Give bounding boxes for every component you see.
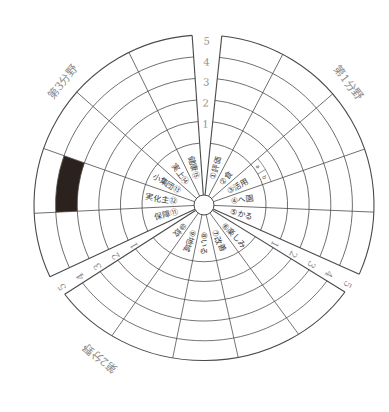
sub-cell-label: b [261, 174, 268, 180]
item-label: ⑤かる [229, 207, 254, 221]
radial-line [209, 54, 283, 196]
radial-line [77, 92, 197, 198]
ring-arc [100, 270, 309, 321]
radial-line [129, 52, 200, 196]
sector-title: 第1分野 [331, 63, 367, 103]
radial-line [212, 210, 345, 292]
item-name: へ園 [237, 193, 254, 204]
radial-line [213, 149, 364, 202]
item-number: ⑪ [169, 207, 179, 218]
item-label: 保障⑪ [153, 206, 179, 221]
item-name: 改善 [213, 234, 228, 253]
item-number: ⑧ [200, 232, 209, 239]
radial-line [210, 213, 299, 335]
item-number: ⑮ [191, 170, 202, 180]
scale-label: 5 [341, 279, 354, 290]
sector-3: 保障⑪実化主⑫小集団⑬実上⑭健康⑮第3分野 [34, 35, 203, 276]
item-name: 楽しみ [225, 225, 249, 249]
radial-line [212, 94, 333, 199]
item-name: いる [200, 239, 209, 255]
sub-cell-divider [258, 170, 266, 175]
item-name: 活用 [231, 175, 250, 192]
scale-label: 4 [203, 56, 210, 67]
scale-label: 1 [268, 239, 281, 250]
item-name: かる [236, 208, 254, 220]
sector-1: ab①評価②食③活用④へ園⑤かる第1分野 [205, 36, 374, 274]
scale-axis-2: 12345 [268, 239, 353, 290]
ring-arc [118, 259, 291, 301]
item-label: ⑧いる [200, 232, 209, 255]
item-number: ⑫ [169, 195, 178, 205]
item-label: ④へ園 [230, 193, 254, 205]
sub-cell-label: a [255, 163, 262, 169]
scale-label: 2 [287, 249, 300, 260]
scale-label: 1 [127, 240, 140, 251]
sector-2: ⑥楽しみ⑦改善⑧いる⑨地域⑩紋第2分野 [65, 210, 345, 376]
scale-label: 5 [56, 281, 69, 292]
filled-cell [56, 156, 85, 213]
item-name: 実化主 [145, 191, 170, 204]
sector-title: 第3分野 [44, 62, 80, 102]
item-label: 実化主⑫ [145, 191, 178, 206]
item-name: 評価 [209, 155, 223, 173]
scale-label: 4 [74, 271, 87, 282]
item-name: 地域 [181, 235, 196, 254]
evaluation-wheel: ab①評価②食③活用④へ園⑤かる第1分野⑥楽しみ⑦改善⑧いる⑨地域⑩紋第2分野保… [0, 0, 389, 412]
scale-label: 5 [204, 35, 211, 46]
sector-title: 第2分野 [80, 340, 120, 376]
scale-label: 2 [202, 97, 209, 108]
center-hub [194, 195, 214, 215]
scale-label: 3 [203, 76, 210, 87]
scale-label: 2 [109, 250, 122, 261]
scale-axis-1: 12345 [202, 35, 210, 129]
scale-axis-3: 12345 [56, 240, 141, 293]
sector-grid [34, 35, 203, 276]
scale-label: 1 [202, 118, 209, 129]
sector-grid [205, 36, 374, 274]
ring-arc [65, 292, 345, 361]
ring-arc [34, 35, 192, 276]
radial-line [50, 209, 195, 277]
scale-label: 4 [323, 269, 336, 280]
